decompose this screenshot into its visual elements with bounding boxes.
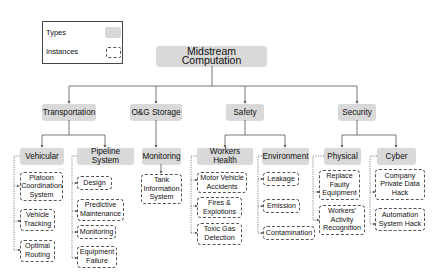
legend-instances-swatch <box>106 47 121 58</box>
instance-label: Motor Vehicle Accidents <box>200 174 244 191</box>
instance-label: Replace Faulty Equipment <box>322 172 357 198</box>
type-monitoring: Monitoring <box>142 148 181 164</box>
instance-company-private-data-hack: Company Private Data Hack <box>375 169 425 200</box>
category-og-storage: O&G Storage <box>130 104 182 120</box>
instance-label: Platoon Coordination System <box>21 174 62 200</box>
type-cyber: Cyber <box>377 148 416 164</box>
category-transportation: Transportation <box>42 104 96 120</box>
instance-tank-information-system: Tank Information System <box>141 174 182 204</box>
instance-toxic-gas-detection: Toxic Gas Detection <box>197 223 242 245</box>
instance-optimal-routing: Optimal Routing <box>20 240 55 262</box>
instance-label: Tank Information System <box>144 176 180 202</box>
legend: Types Instances <box>42 21 123 64</box>
category-label: Safety <box>233 108 256 117</box>
type-workers-health: Workers Health <box>197 148 253 164</box>
type-label: Workers Health <box>197 147 253 165</box>
instance-design: Design <box>77 176 112 190</box>
instance-predictive-maintenance: Predictive Maintenance <box>77 199 124 221</box>
instance-platoon-coordination: Platoon Coordination System <box>20 172 63 201</box>
category-label: Transportation <box>43 108 96 117</box>
type-label: Monitoring <box>142 152 180 161</box>
legend-types-swatch <box>105 27 121 38</box>
instance-vehicle-tracking: Vehicle Tracking <box>20 209 55 231</box>
type-label: Physical <box>327 152 358 161</box>
root-label: Midstream Computation <box>156 47 267 65</box>
instance-label: Design <box>83 179 105 188</box>
instance-leakage: Leakage <box>263 172 299 186</box>
legend-types-label: Types <box>46 28 66 37</box>
root-node: Midstream Computation <box>156 46 267 66</box>
type-physical: Physical <box>324 148 361 164</box>
type-label: Vehicular <box>25 152 59 161</box>
instance-fires-explotions: Fires & Explotions <box>197 197 242 218</box>
instance-label: Vehicle Tracking <box>23 211 52 228</box>
type-label: Pipeline System <box>77 147 134 165</box>
instance-label: Toxic Gas Detection <box>200 225 239 242</box>
instance-motor-vehicle-accidents: Motor Vehicle Accidents <box>197 172 247 193</box>
type-vehicular: Vehicular <box>20 148 64 164</box>
type-label: Cyber <box>386 152 408 161</box>
category-security: Security <box>338 104 376 120</box>
instance-label: Company Private Data Hack <box>378 172 422 198</box>
instance-emission: Emission <box>263 199 300 213</box>
instance-label: Emission <box>267 202 296 211</box>
category-safety: Safety <box>226 104 264 120</box>
instance-label: Automation System Hack <box>378 211 422 228</box>
instance-workers-activity-recognition: Workers' Activity Recognition <box>319 205 365 235</box>
instance-label: Contamination <box>266 229 312 238</box>
type-label: Environment <box>263 152 309 161</box>
instance-label: Equipment Failure <box>80 248 114 265</box>
instance-monitoring: Monitoring <box>77 225 116 239</box>
instance-label: Predictive Maintenance <box>80 201 121 218</box>
instance-label: Fires & Explotions <box>200 199 239 216</box>
instance-label: Monitoring <box>80 228 114 237</box>
instance-replace-faulty-equipment: Replace Faulty Equipment <box>319 170 360 200</box>
instance-equipment-failure: Equipment Failure <box>77 246 117 268</box>
instance-label: Optimal Routing <box>23 242 52 259</box>
instance-contamination: Contamination <box>263 226 315 240</box>
type-environment: Environment <box>262 148 309 164</box>
category-label: O&G Storage <box>131 108 180 117</box>
legend-instances-label: Instances <box>46 47 78 56</box>
type-pipeline-system: Pipeline System <box>77 148 134 164</box>
instance-label: Workers' Activity Recognition <box>322 207 362 233</box>
instance-automation-system-hack: Automation System Hack <box>375 208 425 231</box>
category-label: Security <box>342 108 372 117</box>
instance-label: Leakage <box>267 175 295 184</box>
